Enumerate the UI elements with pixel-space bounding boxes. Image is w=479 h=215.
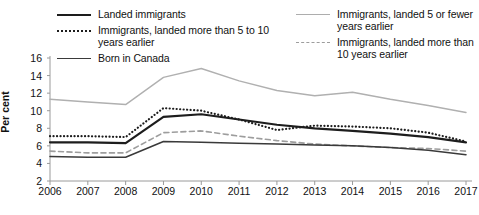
line-chart: Landed immigrants Immigrants, landed mor… <box>0 0 479 215</box>
plot-area: Per cent 161412108642 200620072008200920… <box>0 0 479 215</box>
series-line <box>50 108 466 141</box>
series-line <box>50 69 466 113</box>
chart-canvas <box>0 0 479 215</box>
axis-lines <box>50 56 472 181</box>
